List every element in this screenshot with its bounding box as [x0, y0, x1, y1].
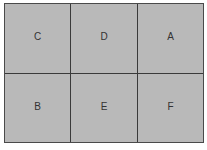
cell-d: D [71, 4, 138, 74]
cell-label: A [167, 31, 174, 42]
cell-label: F [167, 101, 173, 112]
cell-f: F [138, 74, 203, 142]
cell-label: D [100, 31, 107, 42]
cell-label: E [101, 101, 108, 112]
label-grid: C D A B E F [4, 3, 204, 143]
cell-label: C [34, 31, 41, 42]
cell-e: E [71, 74, 138, 142]
cell-c: C [5, 4, 71, 74]
cell-a: A [138, 4, 203, 74]
cell-b: B [5, 74, 71, 142]
cell-label: B [34, 101, 41, 112]
